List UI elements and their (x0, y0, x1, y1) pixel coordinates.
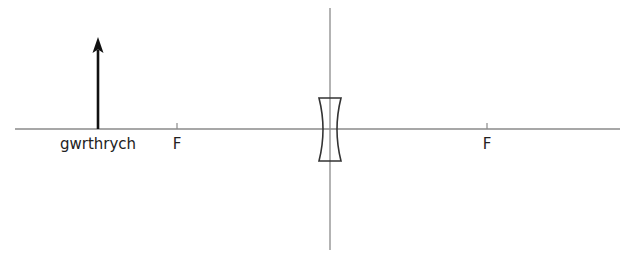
object-label: gwrthrych (60, 135, 136, 153)
lens-diagram: gwrthrych F F (0, 0, 641, 261)
focal-point-left-label: F (173, 135, 182, 153)
focal-point-right-label: F (483, 135, 492, 153)
object-arrow-icon (93, 37, 104, 129)
